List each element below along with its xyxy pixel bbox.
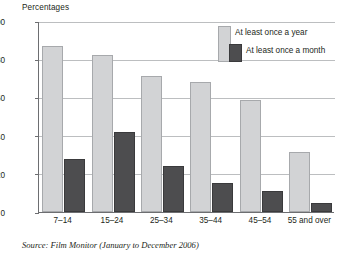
x-tick-label: 55 and over xyxy=(285,216,334,225)
y-tick-label-40: 40 xyxy=(0,132,5,141)
legend-swatch-at-least-once-a-month xyxy=(229,44,242,62)
bar xyxy=(114,132,135,212)
chart-legend: At least once a year At least once a mon… xyxy=(218,26,338,66)
bar-group xyxy=(141,22,184,212)
bar xyxy=(262,191,283,212)
y-axis-title: Percentages xyxy=(22,3,69,12)
x-tick-label: 7–14 xyxy=(38,216,87,225)
bar xyxy=(311,203,332,212)
chart-figure: Percentages 020406080100 7–1415–2425–343… xyxy=(0,0,347,263)
bar xyxy=(190,82,211,212)
bar xyxy=(64,159,85,212)
y-tick-label-60: 60 xyxy=(0,94,5,103)
x-axis-tick-labels: 7–1415–2425–3435–4445–5455 and over xyxy=(38,216,334,232)
legend-label-at-least-once-a-year: At least once a year xyxy=(235,28,307,37)
legend-label-at-least-once-a-month: At least once a month xyxy=(246,46,325,55)
x-tick-label: 35–44 xyxy=(186,216,235,225)
source-note: Source: Film Monitor (January to Decembe… xyxy=(22,240,199,250)
bar-group xyxy=(42,22,85,212)
bar xyxy=(289,152,310,212)
y-tick-label-0: 0 xyxy=(0,209,5,218)
gridline-0 xyxy=(39,213,335,214)
y-tick-label-100: 100 xyxy=(0,18,5,27)
x-tick-label: 45–54 xyxy=(235,216,284,225)
x-tick-label: 15–24 xyxy=(87,216,136,225)
bar xyxy=(240,100,261,212)
y-tick-label-20: 20 xyxy=(0,170,5,179)
y-tick-label-80: 80 xyxy=(0,56,5,65)
bar-group xyxy=(92,22,135,212)
bar xyxy=(163,166,184,212)
x-tick-label: 25–34 xyxy=(137,216,186,225)
bar xyxy=(92,55,113,212)
bar xyxy=(141,76,162,212)
bar xyxy=(42,46,63,212)
bar xyxy=(212,183,233,212)
y-tick-0 xyxy=(35,213,39,214)
